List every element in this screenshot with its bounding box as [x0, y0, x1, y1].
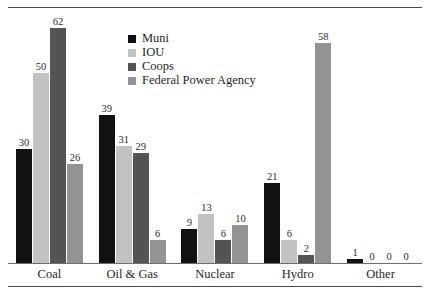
bar — [198, 214, 214, 263]
bar — [264, 183, 280, 263]
legend-item: Coops — [128, 60, 256, 73]
legend-label: Muni — [142, 32, 169, 45]
bar-group: 1000 — [339, 16, 422, 263]
category-label: Hydro — [256, 266, 339, 284]
x-axis-baseline — [8, 263, 422, 264]
cut-off-header-text — [10, 0, 360, 3]
bar-slot: 30 — [16, 16, 32, 263]
bar-value-label: 1 — [352, 247, 357, 258]
bar-group: 216258 — [256, 16, 339, 263]
category-label: Oil & Gas — [91, 266, 174, 284]
bar-slot: 0 — [364, 16, 380, 263]
legend-swatch-icon — [128, 49, 136, 57]
bar — [232, 225, 248, 263]
bar — [315, 43, 331, 263]
bar-slot: 62 — [50, 16, 66, 263]
bar-slot: 6 — [281, 16, 297, 263]
bar — [298, 255, 314, 263]
bar-slot: 26 — [67, 16, 83, 263]
bar — [67, 164, 83, 263]
bar-chart-figure: 3050622639312969136102162581000 CoalOil … — [0, 0, 430, 295]
bar-group: 30506226 — [8, 16, 91, 263]
bar-value-label: 50 — [36, 61, 47, 72]
bar-value-label: 0 — [369, 251, 374, 262]
bar-slot: 0 — [381, 16, 397, 263]
bar-value-label: 13 — [201, 202, 212, 213]
legend-swatch-icon — [128, 63, 136, 71]
bar-value-label: 6 — [221, 228, 226, 239]
bar-value-label: 10 — [235, 213, 246, 224]
bar-slot: 50 — [33, 16, 49, 263]
bar-value-label: 39 — [101, 103, 112, 114]
legend-item: Federal Power Agency — [128, 74, 256, 87]
top-rule — [8, 7, 422, 8]
bar-slot: 39 — [99, 16, 115, 263]
bar — [150, 240, 166, 263]
bar — [50, 28, 66, 263]
bar-slot: 2 — [298, 16, 314, 263]
bar-value-label: 9 — [187, 217, 192, 228]
bar-value-label: 30 — [19, 137, 30, 148]
legend-label: IOU — [142, 46, 164, 59]
category-label: Nuclear — [174, 266, 257, 284]
legend-item: Muni — [128, 32, 256, 45]
bar-value-label: 21 — [267, 171, 278, 182]
bar-value-label: 58 — [318, 31, 329, 42]
chart-legend: MuniIOUCoopsFederal Power Agency — [128, 32, 256, 87]
category-label: Other — [339, 266, 422, 284]
bar — [281, 240, 297, 263]
legend-label: Coops — [142, 60, 174, 73]
bar-value-label: 0 — [403, 251, 408, 262]
bar — [99, 115, 115, 263]
bar-value-label: 0 — [386, 251, 391, 262]
bar-slot: 1 — [347, 16, 363, 263]
bar-slot: 21 — [264, 16, 280, 263]
bar — [215, 240, 231, 263]
bar-value-label: 6 — [155, 228, 160, 239]
bar-value-label: 6 — [287, 228, 292, 239]
bar-value-label: 31 — [118, 134, 129, 145]
category-axis-labels: CoalOil & GasNuclearHydroOther — [8, 266, 422, 284]
bar — [116, 146, 132, 264]
bar-slot: 0 — [398, 16, 414, 263]
bar-value-label: 29 — [135, 141, 146, 152]
category-label: Coal — [8, 266, 91, 284]
bar — [33, 73, 49, 263]
legend-item: IOU — [128, 46, 256, 59]
bar — [133, 153, 149, 263]
bar-value-label: 26 — [70, 152, 81, 163]
bar — [16, 149, 32, 263]
bar — [181, 229, 197, 263]
bar-value-label: 62 — [53, 16, 64, 27]
bar-slot: 58 — [315, 16, 331, 263]
bottom-rule — [8, 286, 422, 287]
legend-swatch-icon — [128, 35, 136, 43]
legend-label: Federal Power Agency — [142, 74, 256, 87]
bar-value-label: 2 — [304, 243, 309, 254]
legend-swatch-icon — [128, 77, 136, 85]
